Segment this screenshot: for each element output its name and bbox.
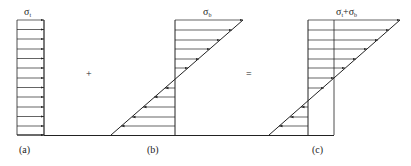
label-sigma-t-plus-sigma-b: σt+σb xyxy=(336,7,357,18)
subscript-t: t xyxy=(29,12,31,18)
subscript-b: b xyxy=(354,12,357,18)
panel-c-combined-stress xyxy=(269,20,400,135)
panel-a-stress-block xyxy=(17,20,44,135)
panel-b-bending-stress xyxy=(111,20,243,135)
label-sigma-b: σb xyxy=(203,7,211,18)
caption-c: (c) xyxy=(312,145,323,155)
caption-b: (b) xyxy=(147,145,159,155)
subscript-b: b xyxy=(208,12,211,18)
plus-operator: + xyxy=(86,69,92,79)
label-sigma-t: σt xyxy=(24,7,31,18)
stress-superposition-diagram xyxy=(0,0,411,166)
equals-operator: = xyxy=(246,69,252,79)
caption-a: (a) xyxy=(19,145,30,155)
